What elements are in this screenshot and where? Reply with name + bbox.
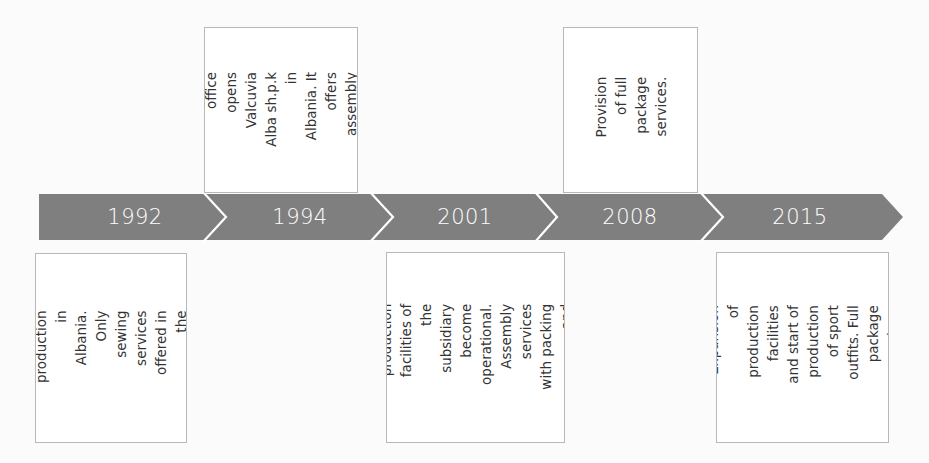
milestone-description-2008: Provision of full package services. xyxy=(591,77,671,144)
year-label-2001: 2001 xyxy=(385,194,545,240)
milestone-description-1994: The head office opens Valcuvia Alba sh.p… xyxy=(204,72,358,148)
milestone-box-2008: Provision of full package services. xyxy=(563,27,698,193)
year-label-1992: 1992 xyxy=(60,194,210,240)
milestone-description-1992: Start of production in Albania. Only sew… xyxy=(35,311,187,386)
milestone-box-1994: The head office opens Valcuvia Alba sh.p… xyxy=(204,27,358,193)
milestone-description-2015: Expansion of production facilities and s… xyxy=(716,305,889,391)
year-label-1994: 1994 xyxy=(220,194,380,240)
milestone-box-1992: Start of production in Albania. Only sew… xyxy=(35,253,187,443)
milestone-box-2015: Expansion of production facilities and s… xyxy=(716,252,889,443)
year-label-2008: 2008 xyxy=(550,194,710,240)
milestone-description-2001: The new production facilities of the sub… xyxy=(386,303,565,392)
milestone-box-2001: The new production facilities of the sub… xyxy=(386,252,565,443)
year-label-2015: 2015 xyxy=(720,194,880,240)
